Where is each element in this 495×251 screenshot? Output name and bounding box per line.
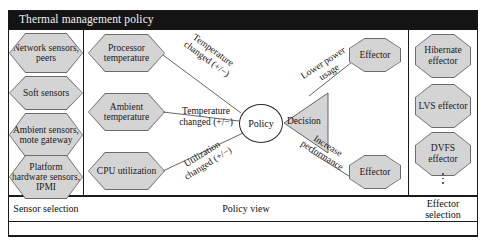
sensor-column-divider [83,30,84,195]
figure-base-strip [9,222,477,236]
effector-item-dvfs-effector[interactable]: DVFS effector [416,133,470,175]
policy-source-1-label: Ambient temperature [89,102,164,122]
thermal-management-policy-figure: Thermal management policy Network sensor… [0,0,495,251]
policy-effector-lower[interactable]: Effector [350,156,400,188]
figure-title: Thermal management policy [19,13,154,25]
effector-item-1-label: LVS effector [418,101,469,112]
decision-node-label: Decision [287,116,321,126]
ellipsis-dot [442,182,444,184]
sensor-item-3-label: Platform hardware sensors, IPMI [10,162,82,192]
effector-column-divider [408,30,409,195]
sensor-item-1-label: Soft sensors [21,88,71,98]
edge-label-ambient-temperature-changed: Temperature changed (+/−) [167,106,245,127]
figure-title-bar: Thermal management policy [9,11,477,30]
ellipsis-dot [442,173,444,175]
effector-item-lvs-effector[interactable]: LVS effector [416,85,470,127]
policy-source-0-label: Processor temperature [89,43,164,63]
ellipsis-dot [442,178,444,180]
footer-sensor-selection: Sensor selection [9,196,83,221]
effector-list-ellipsis [440,173,446,184]
sensor-item-0-label: Network sensors, peers [10,43,82,63]
effector-item-hibernate-effector[interactable]: Hibernate effector [416,35,470,77]
policy-source-2-label: CPU utilization [95,166,158,176]
effector-item-0-label: Hibernate effector [416,45,470,66]
footer-effector-selection: Effector selection [409,196,477,221]
policy-node-label: Policy [248,118,274,129]
policy-node[interactable]: Policy [239,104,283,143]
footer-policy-view: Policy view [84,196,408,221]
sensor-item-2-label: Ambient sensors, mote gateway [10,125,82,145]
policy-effector-0-label: Effector [359,50,392,61]
effector-item-2-label: DVFS effector [416,143,470,164]
policy-effector-1-label: Effector [359,167,392,178]
